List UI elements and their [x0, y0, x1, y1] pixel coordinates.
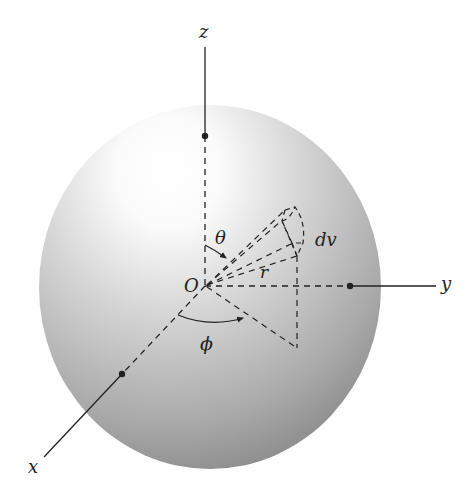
z-axis-point — [202, 133, 208, 139]
y-axis-point — [347, 283, 353, 289]
x-axis-point — [119, 371, 125, 377]
origin-label: O — [184, 275, 199, 296]
phi-label: ϕ — [200, 332, 213, 354]
spherical-coordinate-diagram: z y x O dv r θ ϕ — [0, 0, 474, 489]
volume-element-label: dv — [315, 229, 337, 250]
radius-label: r — [260, 262, 269, 282]
x-axis-label: x — [28, 456, 38, 477]
sphere — [39, 105, 381, 469]
y-axis-label: y — [440, 273, 452, 294]
z-axis-label: z — [198, 21, 209, 42]
theta-label: θ — [215, 227, 226, 248]
